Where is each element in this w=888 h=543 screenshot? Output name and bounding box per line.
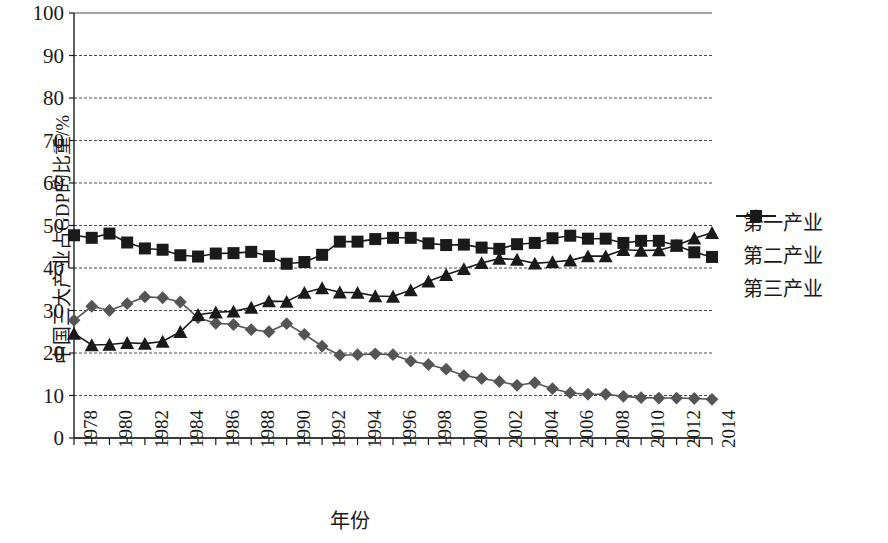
series-line [74, 297, 712, 399]
data-point-square [245, 246, 257, 258]
data-point-square [547, 232, 559, 244]
data-point-diamond [652, 392, 665, 405]
data-point-triangle [457, 262, 471, 275]
data-point-diamond [404, 355, 417, 368]
data-point-diamond [156, 291, 169, 304]
data-point-diamond [103, 304, 116, 317]
data-point-triangle [439, 268, 453, 281]
data-point-triangle [315, 281, 329, 294]
data-point-square [511, 238, 523, 250]
data-point-square [103, 228, 115, 240]
data-point-diamond [670, 392, 683, 405]
data-point-square [86, 232, 98, 244]
data-point-diamond [245, 323, 258, 336]
data-point-square [600, 233, 612, 245]
data-point-triangle [705, 226, 719, 239]
data-point-diamond [546, 382, 559, 395]
data-point-square [192, 251, 204, 263]
data-point-square [228, 247, 240, 259]
data-point-diamond [564, 387, 577, 400]
series-1 [68, 291, 719, 406]
data-point-square [458, 239, 470, 251]
data-point-diamond [617, 390, 630, 403]
data-point-diamond [227, 318, 240, 331]
data-point-diamond [369, 347, 382, 360]
data-point-square [263, 250, 275, 262]
data-point-diamond [706, 393, 719, 406]
chart-legend: 第一产业第二产业第三产业 [735, 205, 823, 304]
legend-marker-triangle [735, 205, 777, 227]
data-point-triangle [687, 232, 701, 245]
data-point-diamond [333, 349, 346, 362]
data-point-triangle [421, 274, 435, 287]
data-point-diamond [475, 372, 488, 385]
legend-item-2: 第二产业 [735, 238, 823, 271]
data-point-diamond [493, 375, 506, 388]
data-point-square [157, 244, 169, 256]
data-point-square [68, 229, 80, 241]
data-point-square [121, 237, 133, 249]
data-point-square [706, 251, 718, 263]
series-line [74, 233, 712, 345]
data-point-square [334, 236, 346, 248]
data-point-diamond [440, 363, 453, 376]
data-point-square [422, 237, 434, 249]
data-point-diamond [511, 379, 524, 392]
data-point-square [298, 256, 310, 268]
data-point-square [529, 237, 541, 249]
data-point-square [476, 242, 488, 254]
data-point-square [174, 249, 186, 261]
data-point-triangle [244, 301, 258, 314]
data-point-square [387, 232, 399, 244]
data-point-diamond [351, 348, 364, 361]
data-point-square [210, 248, 222, 260]
data-point-triangle [297, 286, 311, 299]
data-point-triangle [404, 283, 418, 296]
data-point-diamond [635, 391, 648, 404]
data-point-square [139, 242, 151, 254]
data-point-diamond [582, 388, 595, 401]
data-point-diamond [688, 392, 701, 405]
data-point-square [352, 236, 364, 248]
legend-label: 第三产业 [743, 273, 823, 302]
data-point-square [688, 246, 700, 258]
data-point-diamond [528, 376, 541, 389]
data-point-diamond [121, 297, 134, 310]
data-point-diamond [457, 369, 470, 382]
data-point-square [316, 249, 328, 261]
data-point-diamond [599, 388, 612, 401]
data-point-diamond [263, 325, 276, 338]
data-point-triangle [475, 256, 489, 269]
data-point-square [281, 258, 293, 270]
data-point-square [369, 233, 381, 245]
data-point-square [564, 230, 576, 242]
data-point-diamond [387, 348, 400, 361]
legend-label: 第二产业 [743, 240, 823, 269]
data-point-diamond [422, 358, 435, 371]
data-point-square [405, 232, 417, 244]
data-point-diamond [209, 317, 222, 330]
data-point-triangle [67, 327, 81, 340]
data-point-square [440, 239, 452, 251]
data-point-triangle [156, 335, 170, 348]
chart-container: 中国三大产业占GDP的比重/% 年份 010203040506070809010… [0, 0, 888, 543]
data-point-diamond [280, 317, 293, 330]
data-point-square [582, 233, 594, 245]
data-point-diamond [316, 340, 329, 353]
legend-item-3: 第三产业 [735, 271, 823, 304]
data-point-diamond [138, 291, 151, 304]
data-point-diamond [298, 328, 311, 341]
